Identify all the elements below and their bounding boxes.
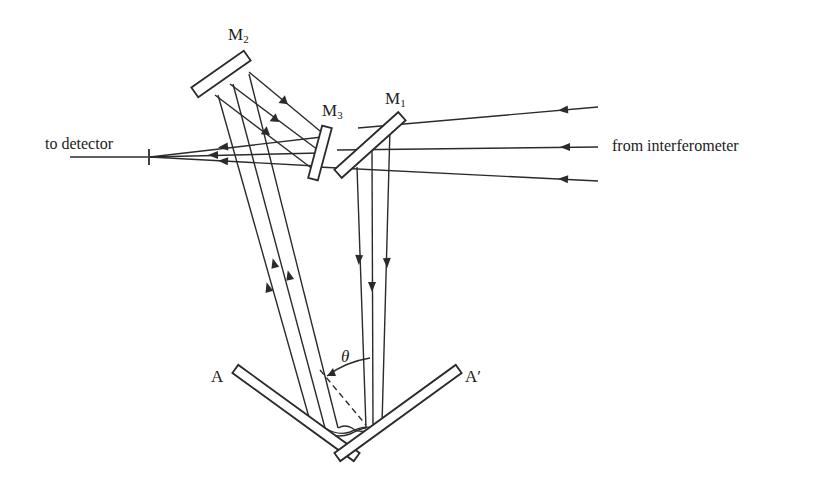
- incoming-beam: [318, 106, 598, 184]
- multi-reflection-optics-diagram: M2 M3 M1 A A′ θ to detector from interfe…: [0, 0, 813, 490]
- a-prime-label: A′: [465, 367, 481, 386]
- from-interferometer-label: from interferometer: [612, 137, 739, 154]
- mirror-a-prime: [334, 365, 461, 461]
- a-label: A: [211, 367, 224, 386]
- m2-label: M2: [228, 25, 249, 45]
- mirror-m1: [334, 112, 405, 178]
- m1-label: M1: [385, 89, 406, 109]
- theta-label: θ: [341, 347, 349, 366]
- theta-angle-marker: [320, 358, 370, 425]
- m1-down-beam: [355, 128, 391, 428]
- mirror-m2: [191, 51, 250, 98]
- to-detector-label: to detector: [45, 135, 114, 152]
- m3-label: M3: [322, 101, 343, 121]
- mirror-a: [232, 365, 359, 461]
